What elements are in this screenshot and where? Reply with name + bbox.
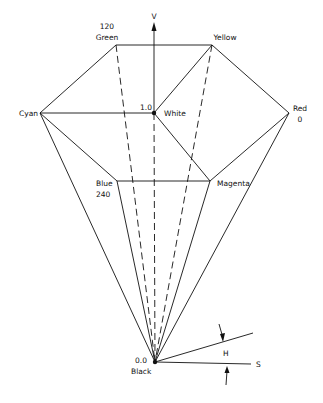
white-value-label: 1.0 (140, 103, 152, 112)
white-label: White (164, 109, 186, 118)
saturation-label: S (256, 360, 261, 369)
green-value-label: 120 (100, 22, 115, 31)
red-label: Red (293, 104, 307, 113)
red-value-label: 0 (298, 115, 303, 124)
yellow-label: Yellow (212, 33, 236, 42)
arrow-up-small-icon (225, 366, 230, 373)
blue-value-label: 240 (96, 190, 111, 199)
magenta-label: Magenta (217, 179, 250, 188)
v-axis-label: V (151, 12, 157, 21)
blue-label: Blue (96, 179, 113, 188)
cyan-label: Cyan (19, 109, 38, 118)
hsv-hexcone-diagram: V 120 Green Yellow Cyan 1.0 White Red 0 … (0, 0, 323, 403)
white-point (152, 111, 156, 115)
hue-angle-indicator (155, 324, 253, 385)
green-label: Green (96, 33, 119, 42)
arrow-down-icon (220, 333, 225, 342)
black-label: Black (131, 367, 152, 376)
hue-label: H (223, 349, 229, 358)
cone-edges (40, 45, 289, 362)
v-axis (152, 22, 157, 113)
arrow-up-icon (152, 22, 157, 31)
black-value-label: 0.0 (135, 356, 147, 365)
